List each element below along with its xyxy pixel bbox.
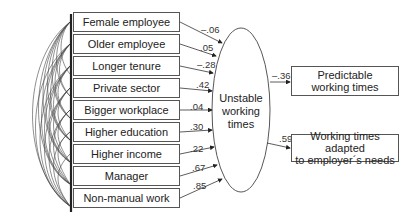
coef-longer-tenure: –.28 [197, 59, 216, 70]
predictor-box-private-sector: Private sector [73, 78, 180, 98]
latent-label: Unstable working times [211, 92, 271, 131]
latent-line-3: times [211, 118, 271, 131]
coef-higher-education: .30 [190, 121, 203, 132]
predictor-box-higher-income: Higher income [73, 144, 180, 164]
predictor-box-non-manual-work: Non-manual work [73, 188, 180, 208]
latent-line-2: working [211, 105, 271, 118]
coef-bigger-workplace: .04 [190, 101, 203, 112]
outcome-line-2: working times [311, 81, 378, 93]
coef-older-employee: .05 [200, 42, 213, 53]
coef-higher-income: .22 [190, 143, 203, 154]
latent-line-1: Unstable [211, 92, 271, 105]
predictor-box-bigger-workplace: Bigger workplace [73, 100, 180, 120]
predictor-box-manager: Manager [73, 166, 180, 186]
coef-predictable: –.36 [272, 70, 291, 81]
outcome-box-predictable: Predictable working times [291, 66, 399, 96]
coef-female-employee: –.06 [201, 24, 220, 35]
predictor-box-female-employee: Female employee [73, 12, 180, 32]
coef-manager: .67 [192, 162, 205, 173]
covariance-arcs [33, 22, 71, 206]
predictor-box-longer-tenure: Longer tenure [73, 56, 180, 76]
predictor-box-higher-education: Higher education [73, 122, 180, 142]
coef-non-manual-work: .85 [193, 180, 206, 191]
predictor-box-older-employee: Older employee [73, 34, 180, 54]
coef-private-sector: .42 [196, 79, 209, 90]
outcome-line-1: Predictable [317, 69, 372, 81]
outcome-box-adapted: Working times adapted to employer´s need… [291, 134, 399, 162]
outcome-line-2: to employer´s needs [295, 154, 395, 166]
outcome-line-1: Working times adapted [292, 130, 398, 154]
